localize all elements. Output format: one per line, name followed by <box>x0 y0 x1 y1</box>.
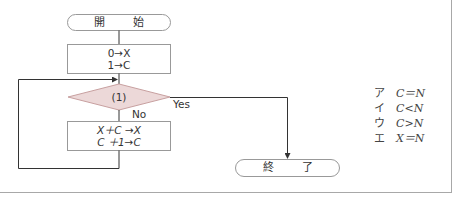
option-i-key: イ <box>374 99 396 115</box>
no-label: No <box>132 108 146 121</box>
yes-label: Yes <box>173 98 190 111</box>
option-u: ウC>N <box>374 114 423 130</box>
update-line-2: C ＋1→C <box>67 136 171 148</box>
init-line-2: 1→C <box>67 59 171 71</box>
decision-label: (1) <box>89 91 149 104</box>
end-label: 終 了 <box>236 161 352 174</box>
option-a-key: ア <box>374 84 396 100</box>
option-e: エX＝N <box>374 129 424 145</box>
init-line-1: 0→X <box>67 47 171 59</box>
option-e-expr: X＝N <box>396 132 424 145</box>
update-line-1: X＋C →X <box>67 124 171 136</box>
option-e-key: エ <box>374 129 396 145</box>
option-u-key: ウ <box>374 114 396 130</box>
option-i: イC<N <box>374 99 423 115</box>
start-label: 開 始 <box>67 16 183 29</box>
option-a: アC＝N <box>374 84 425 100</box>
